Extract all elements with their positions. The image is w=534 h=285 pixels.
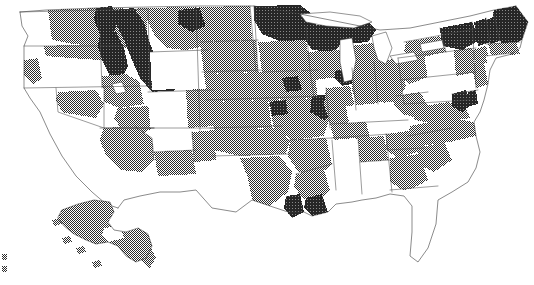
region-minnesota-south: [258, 40, 310, 72]
region-missouri-kansas-city: [270, 100, 288, 116]
us-county-map-svg: [0, 0, 534, 285]
region-new-mexico-south: [154, 150, 196, 176]
region-aleutian-far-west-1: [2, 254, 7, 260]
region-tennessee-west: [330, 122, 370, 140]
region-south-dakota: [200, 40, 258, 74]
region-alabama-south: [360, 160, 390, 194]
region-wyoming: [150, 50, 208, 90]
region-mississippi: [332, 138, 360, 190]
region-oklahoma: [212, 128, 290, 156]
region-new-mexico-north: [152, 128, 192, 152]
choropleth-map-figure: [0, 0, 534, 285]
region-nebraska: [204, 72, 266, 102]
region-colorado-west: [148, 90, 188, 128]
region-kansas: [210, 100, 272, 130]
region-north-dakota-west: [198, 6, 252, 42]
region-texas-panhandle: [192, 130, 216, 162]
region-alabama-north: [358, 136, 388, 162]
region-aleutian-far-west-2: [2, 266, 7, 272]
